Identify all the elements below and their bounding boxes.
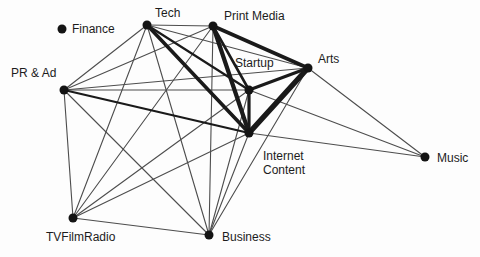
node-label-tvfilmradio: TVFilmRadio [46,230,116,244]
edge-pr_ad-tvfilmradio [64,90,73,218]
network-figure: FinanceTechPrint MediaPR & AdStartupArts… [0,0,480,257]
node-internet [245,129,254,138]
edge-internet-business [209,133,249,235]
node-pr_ad [60,86,69,95]
node-label-music: Music [437,151,468,165]
node-label-print_media: Print Media [224,9,285,23]
node-business [205,231,214,240]
edge-tech-print_media [147,25,213,26]
node-label-startup: Startup [235,56,274,70]
node-label-arts: Arts [318,52,339,66]
node-label-tech: Tech [155,6,180,20]
edge-internet-pr_ad [64,90,249,133]
node-finance [58,25,67,34]
node-label-internet: InternetContent [263,149,306,177]
network-diagram: FinanceTechPrint MediaPR & AdStartupArts… [0,0,480,257]
edge-arts-pr_ad [64,68,308,90]
edge-print_media-business [209,26,213,235]
node-startup [245,86,254,95]
node-label-finance: Finance [72,22,115,36]
edge-startup-tvfilmradio [73,90,249,218]
node-label-pr_ad: PR & Ad [11,66,56,80]
edge-internet-tvfilmradio [73,133,249,218]
node-label-business: Business [222,230,271,244]
node-arts [304,64,313,73]
node-print_media [209,22,218,31]
node-tvfilmradio [69,214,78,223]
node-music [421,153,430,162]
node-tech [143,21,152,30]
